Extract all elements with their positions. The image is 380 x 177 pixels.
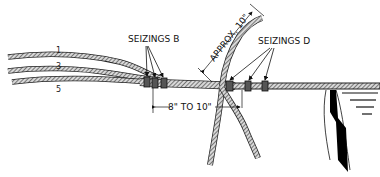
strand-1 bbox=[8, 55, 160, 78]
seizing-d-2 bbox=[245, 81, 251, 91]
seizings-b bbox=[144, 77, 167, 88]
rope-splice-diagram: SEIZINGS B SEIZINGS D APPROX. 10" 8" TO … bbox=[0, 0, 380, 177]
strand-number-3: 3 bbox=[56, 62, 61, 71]
seizing-d-3 bbox=[262, 81, 268, 91]
seizings-b-label: SEIZINGS B bbox=[128, 34, 179, 44]
standing-rope bbox=[232, 83, 380, 89]
seizings-d bbox=[226, 81, 268, 91]
hanging-strand-right bbox=[222, 88, 258, 158]
strand-5 bbox=[12, 79, 160, 82]
seizings-d-label: SEIZINGS D bbox=[258, 36, 310, 46]
support-post bbox=[324, 90, 350, 172]
strand-number-1: 1 bbox=[56, 46, 61, 55]
seizing-d-1 bbox=[226, 81, 233, 91]
seizing-b-3 bbox=[161, 78, 167, 88]
hanging-strand-left bbox=[210, 88, 222, 165]
seizing-b-1 bbox=[144, 77, 150, 87]
surface-lines bbox=[342, 93, 378, 114]
strand-number-5: 5 bbox=[56, 85, 61, 94]
seizing-b-2 bbox=[152, 78, 158, 88]
spacing-label: 8" TO 10" bbox=[168, 102, 212, 112]
